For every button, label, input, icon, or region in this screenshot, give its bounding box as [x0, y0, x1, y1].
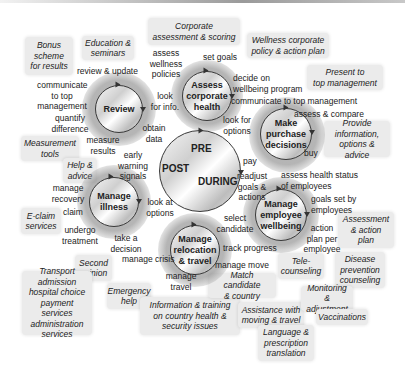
label-set-goals: set goals [203, 52, 237, 63]
box-education: Education & seminars [82, 36, 134, 60]
box-telecounseling: Tele- counseling [278, 253, 324, 279]
label-obtain-data: obtain data [138, 123, 170, 144]
box-vaccinations: Vaccinations [316, 309, 368, 325]
box-bonus-scheme: Bonus scheme for results [25, 37, 73, 75]
label-assess-wellness: assess wellness policies [148, 48, 184, 80]
label-select-candidate: select candidate [213, 213, 257, 234]
circle-assess-corporate-health: Assess corporate health [182, 71, 232, 121]
label-goals-set: goals set by employees [311, 194, 356, 215]
box-transport: Transport admission hospital choice paym… [22, 271, 92, 335]
box-present-top: Present to top management [307, 65, 383, 90]
top-border [0, 0, 405, 3]
box-assessment-action: Assessment & action plan [338, 212, 394, 248]
center-post: POST [162, 163, 189, 174]
label-undergo-treatment: undergo treatment [62, 225, 98, 246]
label-assess-health: assess health status of employees [281, 170, 358, 191]
arrow-icon [116, 82, 121, 88]
label-take-decision: take a decision [108, 233, 144, 254]
label-manage-travel: manage travel [163, 271, 199, 292]
box-eclaim: E-claim services [21, 208, 61, 234]
label-look-for-info: look for info. [148, 91, 182, 112]
box-monitoring: Monitoring & adjustment [301, 286, 353, 311]
label-action-plan: action plan per employee [302, 223, 342, 255]
label-manage-move: manage move [215, 260, 269, 271]
label-quantify: quantify difference [48, 113, 92, 134]
label-communicate-top-management: communicate to top management [231, 96, 357, 107]
center-pre: PRE [191, 143, 212, 154]
label-claim: claim [63, 207, 83, 218]
circle-manage-illness: Manage illness [89, 177, 139, 227]
label-decide-on: decide on wellbeing program [233, 73, 302, 94]
label-buy: buy [304, 148, 318, 159]
label-manage-crisis: manage crisis [122, 254, 174, 265]
box-language: Language & prescription translation [258, 325, 314, 361]
arrow-icon [199, 128, 204, 134]
label-readjust: readjust goals & actions [232, 171, 272, 203]
arrow-icon [309, 130, 315, 135]
arrow-icon [192, 222, 197, 228]
arrow-icon [140, 107, 146, 112]
label-communicate-top: communicate to top management [37, 80, 87, 112]
label-early-warning: early warning signals [113, 150, 153, 182]
label-pay: pay [243, 156, 257, 167]
label-look-for-options: look for options [219, 115, 255, 136]
box-wellness-policy: Wellness corporate policy & action plan [247, 33, 329, 58]
box-corporate-assessment: Corporate assessment & scoring [148, 18, 240, 45]
box-provide-info: Provide information, options & advice [324, 121, 390, 157]
label-manage-recovery: manage recovery [50, 183, 86, 204]
arrow-icon [204, 68, 209, 74]
label-assess-compare: assess & compare [294, 109, 364, 120]
box-info-training: Information & training on country health… [140, 297, 240, 335]
label-review-update: review & update [77, 66, 138, 77]
arrow-icon [304, 212, 310, 217]
circle-review: Review [95, 85, 143, 133]
label-look-at-options: look at options [142, 197, 178, 218]
label-track-progress: track progress [223, 243, 277, 254]
